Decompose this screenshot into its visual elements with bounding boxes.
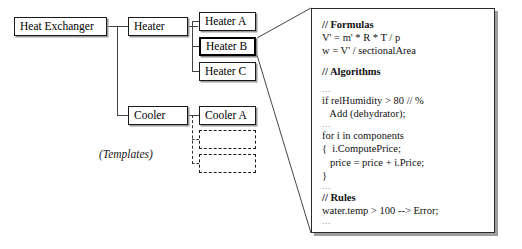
code-line: // Algorithms	[322, 65, 494, 78]
edge-heater-to-heater-a	[192, 21, 199, 22]
code-line: V' = m' * R * T / p	[322, 31, 494, 44]
edge-template-2	[192, 163, 199, 164]
node-heater[interactable]: Heater	[128, 17, 188, 36]
code-line: }	[322, 169, 494, 182]
node-label: Heat Exchanger	[20, 21, 94, 33]
edge-heater-to-stub	[188, 26, 198, 27]
code-line: w = V' / sectionalArea	[322, 44, 494, 57]
templates-label: (Templates)	[99, 148, 153, 160]
node-label: Heater	[134, 21, 165, 33]
code-line: ...	[322, 217, 494, 226]
node-heater-a[interactable]: Heater A	[199, 12, 256, 31]
code-line: if relHumidity > 80 // %	[322, 94, 494, 107]
code-line: price = price + i.Price;	[322, 156, 494, 169]
edge-trunk-to-cooler	[117, 115, 128, 116]
node-label: Heater C	[205, 66, 246, 78]
code-line: for i in components	[322, 129, 494, 142]
node-cooler-a[interactable]: Cooler A	[199, 106, 256, 125]
diagram-canvas: Heat Exchanger Heater Heater A Heater B …	[0, 0, 522, 249]
code-line: Add (dehydrator);	[322, 107, 494, 120]
node-label: Cooler	[134, 110, 165, 122]
node-heater-b[interactable]: Heater B	[199, 37, 256, 56]
node-cooler[interactable]: Cooler	[128, 106, 188, 125]
template-placeholder-2[interactable]	[199, 154, 256, 173]
edge-cooler-to-cooler-a	[188, 115, 199, 116]
code-line	[322, 78, 494, 85]
node-label: Heater B	[206, 41, 247, 53]
code-line: ...	[322, 120, 494, 129]
code-panel[interactable]: // FormulasV' = m' * R * T / pw = V' / s…	[311, 8, 495, 233]
code-line: ...	[322, 85, 494, 94]
node-label: Cooler A	[205, 110, 247, 122]
edge-trunk-to-heater	[117, 26, 128, 27]
edge-exchanger-to-stub	[107, 26, 117, 27]
code-lines-container: // FormulasV' = m' * R * T / pw = V' / s…	[312, 9, 494, 226]
edge-heater-to-heater-c	[192, 71, 199, 72]
code-line: // Rules	[322, 191, 494, 204]
node-heat-exchanger[interactable]: Heat Exchanger	[14, 17, 107, 36]
code-line: water.temp > 100 --> Error;	[322, 204, 494, 217]
code-line: // Formulas	[322, 18, 494, 31]
code-line: ...	[322, 182, 494, 191]
code-line	[322, 58, 494, 65]
node-heater-c[interactable]: Heater C	[199, 62, 256, 81]
node-label: Heater A	[205, 16, 246, 28]
edge-template-1	[192, 139, 199, 140]
template-placeholder-1[interactable]	[199, 130, 256, 149]
edge-exchanger-trunk	[117, 26, 118, 116]
edge-heater-to-heater-b	[192, 46, 199, 47]
code-line: { i.ComputePrice;	[322, 142, 494, 155]
